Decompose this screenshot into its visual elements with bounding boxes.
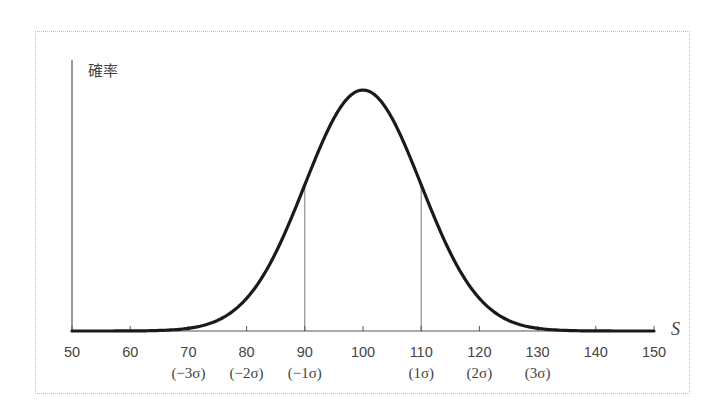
sigma-label: (3σ) <box>525 365 551 382</box>
x-tick-label: 100 <box>351 344 375 360</box>
normal-distribution-chart: 確率 S 5060708090100110120130140150 (−3σ)(… <box>0 0 722 416</box>
x-tick-label: 130 <box>525 344 549 360</box>
x-tick-label: 110 <box>410 344 433 360</box>
x-tick-label: 50 <box>64 344 80 360</box>
y-axis-title: 確率 <box>88 62 118 80</box>
x-tick-label: 60 <box>122 344 138 360</box>
normal-distribution-curve <box>72 90 654 331</box>
sigma-label: (1σ) <box>408 365 434 382</box>
x-tick-label: 140 <box>584 344 608 360</box>
sigma-labels: (−3σ)(−2σ)(−1σ)(1σ)(2σ)(3σ) <box>171 365 550 382</box>
sigma-label: (−3σ) <box>171 365 205 382</box>
sigma-reference-lines <box>305 185 421 331</box>
x-tick-label: 120 <box>467 344 491 360</box>
x-tick-label: 150 <box>642 344 666 360</box>
sigma-label: (−1σ) <box>288 365 322 382</box>
sigma-label: (−2σ) <box>230 365 264 382</box>
x-axis-variable-label: S <box>671 319 680 339</box>
x-tick-label: 90 <box>297 344 313 360</box>
x-tick-label: 80 <box>239 344 255 360</box>
sigma-label: (2σ) <box>467 365 493 382</box>
x-tick-labels: 5060708090100110120130140150 <box>64 344 666 360</box>
x-tick-label: 70 <box>180 344 196 360</box>
